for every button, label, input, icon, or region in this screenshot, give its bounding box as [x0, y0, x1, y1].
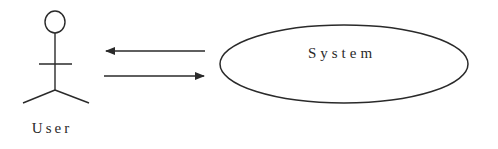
actor-label: User: [32, 120, 72, 136]
use-case-system: System: [220, 25, 468, 103]
use-case-label: System: [308, 45, 376, 61]
stick-figure-icon: [23, 11, 89, 103]
actor-user: User: [23, 11, 89, 136]
use-case-diagram: User System: [0, 0, 498, 149]
use-case-ellipse: [220, 25, 468, 103]
